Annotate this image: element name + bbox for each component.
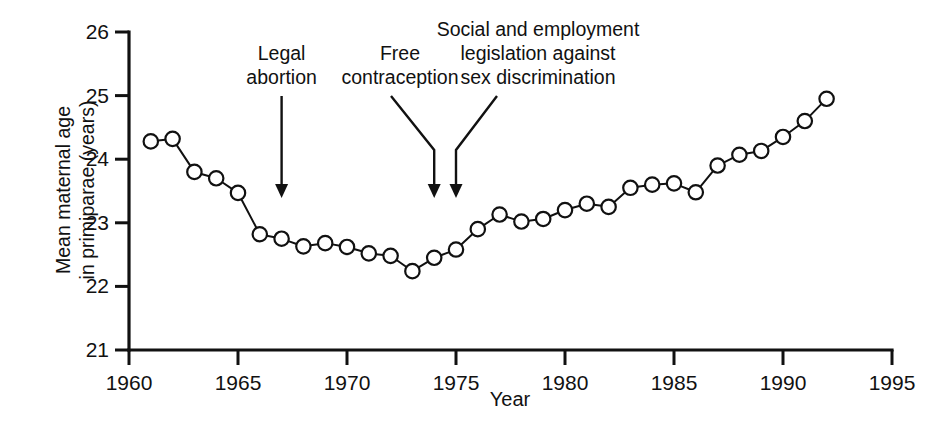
x-tick-label: 1970 bbox=[324, 371, 371, 394]
data-point bbox=[536, 212, 550, 226]
x-tick-group bbox=[129, 350, 892, 365]
y-tick-label: 21 bbox=[86, 338, 109, 361]
data-point bbox=[819, 92, 833, 106]
y-tick-label: 26 bbox=[86, 20, 109, 43]
data-point bbox=[340, 240, 354, 254]
x-tick-label: 1965 bbox=[215, 371, 262, 394]
data-point bbox=[449, 242, 463, 256]
y-tick-label-group: 212223242526 bbox=[86, 20, 110, 361]
data-point bbox=[645, 177, 659, 191]
data-point bbox=[471, 222, 485, 236]
data-point bbox=[558, 203, 572, 217]
arrow-head bbox=[428, 184, 441, 198]
chart-figure: Mean maternal age in primiparae (years) … bbox=[0, 0, 933, 428]
data-point bbox=[253, 227, 267, 241]
data-point bbox=[580, 197, 594, 211]
data-point bbox=[710, 158, 724, 172]
y-tick-label: 23 bbox=[86, 211, 109, 234]
data-point bbox=[274, 232, 288, 246]
y-tick-label: 25 bbox=[86, 84, 109, 107]
data-point bbox=[667, 176, 681, 190]
data-point bbox=[187, 165, 201, 179]
series-line bbox=[158, 104, 822, 267]
arrow-head bbox=[450, 184, 463, 198]
data-point bbox=[514, 214, 528, 228]
data-point bbox=[492, 207, 506, 221]
data-point bbox=[209, 171, 223, 185]
data-point bbox=[165, 132, 179, 146]
annotation-label-legal-abortion: Legalabortion bbox=[246, 42, 316, 88]
x-tick-label: 1990 bbox=[760, 371, 807, 394]
x-tick-label: 1960 bbox=[106, 371, 153, 394]
data-point bbox=[383, 249, 397, 263]
data-point bbox=[776, 130, 790, 144]
data-point bbox=[231, 186, 245, 200]
data-series-group bbox=[144, 92, 834, 279]
annotation-leader-free-contraception bbox=[391, 96, 434, 185]
x-tick-label: 1975 bbox=[433, 371, 480, 394]
data-point bbox=[601, 200, 615, 214]
x-tick-label: 1985 bbox=[651, 371, 698, 394]
annotation-group: LegalabortionFreecontraceptionSocial and… bbox=[246, 18, 640, 198]
data-point bbox=[754, 144, 768, 158]
arrow-head bbox=[275, 184, 288, 198]
data-point bbox=[623, 181, 637, 195]
x-tick-label: 1980 bbox=[542, 371, 589, 394]
x-tick-label: 1995 bbox=[869, 371, 916, 394]
data-point bbox=[798, 114, 812, 128]
data-point bbox=[296, 239, 310, 253]
data-point bbox=[362, 246, 376, 260]
data-point bbox=[405, 264, 419, 278]
y-tick-label: 22 bbox=[86, 274, 109, 297]
y-tick-label: 24 bbox=[86, 147, 110, 170]
x-axis-title: Year bbox=[490, 388, 531, 410]
series-markers bbox=[144, 92, 834, 279]
data-point bbox=[427, 251, 441, 265]
annotation-label-free-contraception: Freecontraception bbox=[341, 42, 458, 88]
y-tick-group bbox=[115, 32, 129, 350]
data-point bbox=[318, 236, 332, 250]
annotation-leader-sex-discrimination bbox=[456, 96, 497, 185]
annotation-label-sex-discrimination: Social and employmentlegislation against… bbox=[437, 18, 640, 88]
data-point bbox=[732, 148, 746, 162]
data-point bbox=[144, 134, 158, 148]
chart-canvas: 212223242526 196019651970197519801985199… bbox=[0, 0, 933, 428]
data-point bbox=[689, 185, 703, 199]
